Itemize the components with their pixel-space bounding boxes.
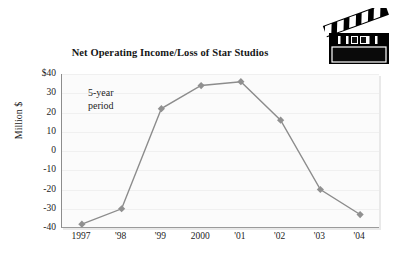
y-tick-label: 0 [22, 145, 56, 155]
y-tick-label: 20 [22, 107, 56, 117]
data-point-marker [357, 211, 364, 218]
y-tick-label: -40 [22, 222, 56, 232]
y-tick-label: $40 [22, 68, 56, 78]
x-tick-label: '04 [336, 231, 382, 241]
y-tick-label: -20 [22, 184, 56, 194]
annotation-line-1: 5-year [88, 86, 114, 99]
y-tick-label: -30 [22, 203, 56, 213]
data-point-marker [158, 105, 165, 112]
data-point-marker [317, 186, 324, 193]
chart-page: Net Operating Income/Loss of Star Studio… [0, 0, 397, 260]
chart-title: Net Operating Income/Loss of Star Studio… [0, 47, 340, 58]
y-tick-label: -10 [22, 164, 56, 174]
data-point-marker [118, 205, 125, 212]
annotation-line-2: period [88, 99, 114, 112]
y-tick-label: 10 [22, 126, 56, 136]
annotation-5-year-period: 5-year period [88, 86, 114, 112]
data-point-marker [78, 221, 85, 228]
y-tick-label: 30 [22, 87, 56, 97]
series-line [82, 82, 360, 225]
data-point-marker [198, 82, 205, 89]
